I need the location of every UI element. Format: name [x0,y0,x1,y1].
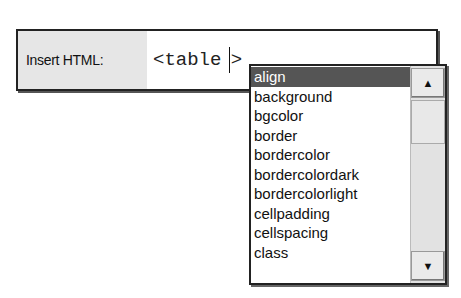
list-item-border[interactable]: border [251,126,410,146]
scroll-down-button[interactable]: ▼ [411,251,445,281]
list-item-class[interactable]: class [251,243,410,263]
list-item-align[interactable]: align [251,67,410,87]
arrow-up-icon: ▲ [423,77,434,89]
list-item-bordercolor[interactable]: bordercolor [251,145,410,165]
insert-html-label: Insert HTML: [18,31,147,89]
list-item-cellspacing[interactable]: cellspacing [251,223,410,243]
arrow-down-icon: ▼ [423,260,434,272]
list-item-bordercolorlight[interactable]: bordercolorlight [251,184,410,204]
scroll-up-button[interactable]: ▲ [411,68,445,98]
vertical-scrollbar[interactable]: ▲ ▼ [410,66,445,283]
scrollbar-thumb[interactable] [411,100,445,144]
input-value: <table [153,49,233,71]
list-item-bordercolordark[interactable]: bordercolordark [251,165,410,185]
list-item-background[interactable]: background [251,87,410,107]
text-caret [229,47,230,73]
attribute-list: align background bgcolor border borderco… [251,66,410,283]
list-item-cellpadding[interactable]: cellpadding [251,204,410,224]
attribute-autocomplete-list[interactable]: align background bgcolor border borderco… [249,64,447,285]
input-suffix: > [231,49,242,71]
list-item-bgcolor[interactable]: bgcolor [251,106,410,126]
